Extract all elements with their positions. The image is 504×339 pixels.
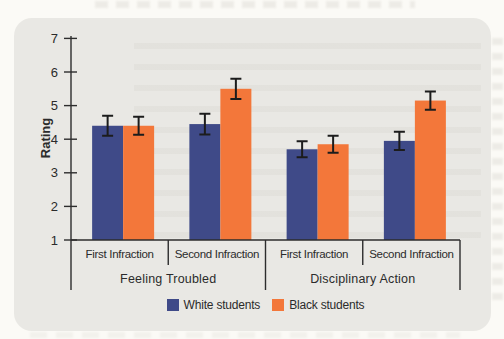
bar-black-students-group-3 xyxy=(318,144,349,240)
legend-label: White students xyxy=(184,298,261,312)
bar-white-students-group-4 xyxy=(384,141,415,240)
legend-label: Black students xyxy=(289,298,364,312)
bar-black-students-group-2 xyxy=(220,89,251,240)
section-label: Disciplinary Action xyxy=(310,272,415,286)
category-label: Second Infraction xyxy=(175,248,259,260)
y-tick-label: 3 xyxy=(51,165,58,180)
category-label: First Infraction xyxy=(280,248,348,260)
grouped-bar-chart: 1234567RatingFirst InfractionSecond Infr… xyxy=(0,0,504,339)
y-tick-label: 2 xyxy=(51,199,58,214)
y-tick-label: 5 xyxy=(51,98,58,113)
y-axis-title: Rating xyxy=(38,118,53,159)
bar-black-students-group-1 xyxy=(123,126,154,240)
legend-item-white-students: White students xyxy=(167,298,261,312)
chart-legend: White students Black students xyxy=(71,297,460,313)
black-students-swatch-icon xyxy=(272,299,284,311)
y-tick-label: 6 xyxy=(51,65,58,80)
y-tick-label: 1 xyxy=(51,233,58,248)
category-label: First Infraction xyxy=(86,248,154,260)
section-label: Feeling Troubled xyxy=(120,272,216,286)
y-tick-label: 7 xyxy=(51,31,58,46)
legend-item-black-students: Black students xyxy=(272,298,364,312)
bar-white-students-group-2 xyxy=(189,124,220,240)
category-label: Second Infraction xyxy=(369,248,453,260)
bar-white-students-group-3 xyxy=(287,149,318,240)
bar-white-students-group-1 xyxy=(92,126,123,240)
bar-black-students-group-4 xyxy=(415,101,446,240)
white-students-swatch-icon xyxy=(167,299,179,311)
